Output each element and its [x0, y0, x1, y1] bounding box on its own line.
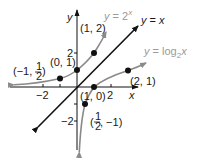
exponential-label: y = 2x [103, 8, 133, 22]
identity-label: y = x [140, 14, 165, 26]
x-tick-label-2: 2 [107, 89, 113, 101]
identity-line [38, 26, 138, 127]
logarithm-label: y = log2x [143, 45, 187, 60]
label-neg1-half: (−1, [13, 65, 32, 77]
point-2-1 [125, 68, 131, 74]
x-tick-label-neg2: −2 [36, 89, 49, 101]
axes: −2 2 2 −2 x y [10, 10, 138, 150]
label-1-2: (1, 2) [80, 22, 106, 34]
label-1-0: (1, 0) [80, 90, 106, 102]
x-axis-label: x [128, 89, 135, 101]
function-graph: −2 2 2 −2 x y y = x y = 2x (−1, 1 2 ) (0… [0, 0, 197, 164]
y-tick-label-neg2: −2 [61, 115, 74, 127]
y-axis-label: y [66, 11, 74, 23]
label-half-neg1-close: , −1) [100, 116, 122, 128]
label-2-1: (2, 1) [130, 75, 156, 87]
point-1-2 [91, 50, 97, 56]
label-0-1: (0, 1) [50, 56, 76, 68]
label-neg1-half-close: ) [42, 65, 46, 77]
label-half-neg1-open: ( [90, 116, 94, 128]
point-neg1-half [57, 76, 63, 82]
